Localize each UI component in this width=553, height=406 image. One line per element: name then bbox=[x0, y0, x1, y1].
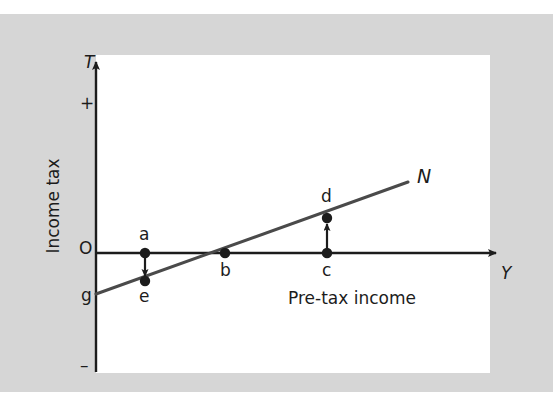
point-marker-d bbox=[322, 213, 332, 223]
figure-root: Income tax T Y + O g – N a b c d e Pre-t… bbox=[0, 0, 553, 406]
point-marker-b bbox=[220, 248, 230, 258]
point-marker-e bbox=[140, 276, 150, 286]
point-marker-a bbox=[140, 248, 150, 258]
point-marker-c bbox=[322, 248, 332, 258]
chart-drawing bbox=[0, 0, 553, 406]
